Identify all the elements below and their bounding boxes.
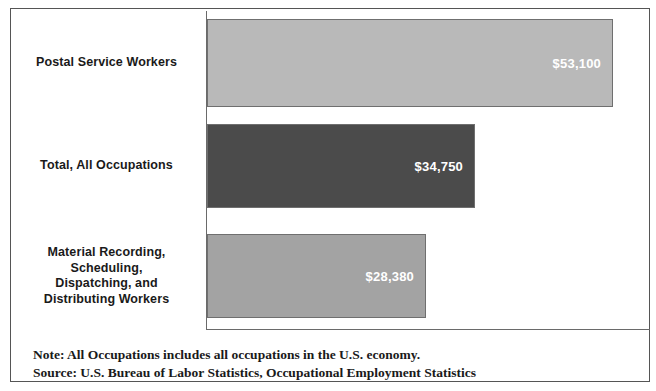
chart-figure: Postal Service Workers $53,100 Total, Al… — [0, 0, 656, 391]
bar-row: Postal Service Workers $53,100 — [207, 19, 650, 107]
note-line: Note: All Occupations includes all occup… — [33, 346, 633, 364]
category-label-line: Postal Service Workers — [17, 55, 196, 71]
chart-frame: Postal Service Workers $53,100 Total, Al… — [10, 8, 650, 382]
bar-row: Material Recording, Scheduling, Dispatch… — [207, 234, 650, 318]
category-label-line: Material Recording, — [17, 245, 196, 261]
source-line: Source: U.S. Bureau of Labor Statistics,… — [33, 364, 633, 382]
bar-value-label: $34,750 — [415, 159, 474, 174]
category-label: Material Recording, Scheduling, Dispatch… — [17, 245, 207, 307]
bar-row: Total, All Occupations $34,750 — [207, 124, 650, 208]
bar: $28,380 — [207, 234, 426, 318]
footnotes: Note: All Occupations includes all occup… — [33, 346, 633, 382]
plot-area: Postal Service Workers $53,100 Total, Al… — [206, 11, 650, 330]
category-label-line: Dispatching, and — [17, 276, 196, 292]
bar: $34,750 — [207, 124, 475, 208]
category-label-line: Distributing Workers — [17, 292, 196, 308]
category-label-line: Scheduling, — [17, 261, 196, 277]
bar-value-label: $53,100 — [553, 56, 612, 71]
category-label-line: Total, All Occupations — [17, 158, 196, 174]
bar-value-label: $28,380 — [366, 269, 425, 284]
bar: $53,100 — [207, 19, 613, 107]
category-label: Postal Service Workers — [17, 55, 207, 71]
category-label: Total, All Occupations — [17, 158, 207, 174]
